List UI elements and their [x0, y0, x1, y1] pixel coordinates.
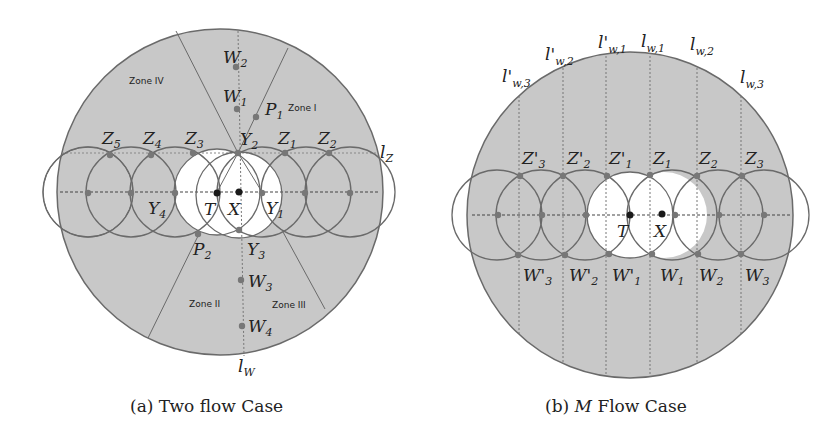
point-baseline-b4	[672, 212, 678, 218]
point-zp3	[517, 173, 523, 179]
point-t-b	[627, 212, 634, 219]
figure-b: l'w,3 l'w,2 l'w,1 lw,1 lw,2 lw,3 Z'3 Z'2…	[452, 31, 809, 416]
point-baseline-b2	[539, 212, 545, 218]
point-y1	[259, 190, 265, 196]
point-w3	[238, 277, 244, 283]
point-z4	[148, 152, 154, 158]
label-lp-w3: l'w,3	[502, 66, 531, 90]
point-w4	[239, 323, 245, 329]
point-y3	[236, 227, 242, 233]
point-x-b	[659, 211, 666, 218]
point-baseline-3	[302, 190, 308, 196]
label-lp-w2: l'w,2	[545, 44, 574, 68]
label-lp-w1: l'w,1	[598, 32, 627, 56]
caption-b: (b) M Flow Case	[545, 396, 687, 416]
label-lw: lW	[238, 356, 256, 379]
point-w1	[649, 251, 655, 257]
zone-i-label: Zone I	[288, 103, 316, 113]
zone-iii-label: Zone III	[272, 300, 306, 310]
point-zp1	[604, 173, 610, 179]
point-x	[236, 189, 243, 196]
point-baseline-1	[85, 190, 91, 196]
caption-a: (a) Two flow Case	[130, 396, 283, 416]
point-z3	[739, 173, 745, 179]
point-baseline-b3	[583, 212, 589, 218]
label-t: T	[204, 199, 217, 219]
point-zp2	[560, 173, 566, 179]
zone-iv-label: Zone IV	[129, 76, 164, 86]
point-t	[214, 190, 221, 197]
point-wp2	[562, 252, 568, 258]
label-x: X	[226, 199, 241, 219]
point-baseline-4	[347, 190, 353, 196]
point-w2	[695, 251, 701, 257]
point-wp3	[515, 252, 521, 258]
label-l-w1: lw,1	[641, 31, 665, 55]
label-x-b: X	[652, 221, 667, 241]
label-t-b: T	[617, 221, 630, 241]
point-z1	[647, 172, 653, 178]
point-z1	[282, 150, 288, 156]
point-p1	[253, 114, 259, 120]
point-baseline-b6	[761, 212, 767, 218]
point-y4	[172, 190, 178, 196]
point-baseline-b5	[716, 212, 722, 218]
point-z5	[107, 152, 113, 158]
point-baseline-b1	[495, 212, 501, 218]
label-lz: lZ	[380, 142, 393, 165]
point-wp1	[606, 251, 612, 257]
point-baseline-2	[128, 190, 134, 196]
figure-canvas: Zone IV Zone I Zone II Zone III W2 W1 P1…	[0, 0, 839, 438]
label-l-w2: lw,2	[690, 34, 714, 58]
label-l-w3: lw,3	[740, 67, 764, 91]
zone-ii-label: Zone II	[189, 299, 220, 309]
point-p2	[195, 231, 201, 237]
figure-a: Zone IV Zone I Zone II Zone III W2 W1 P1…	[43, 29, 395, 416]
point-y2	[235, 150, 241, 156]
point-z2	[694, 173, 700, 179]
point-w3	[738, 251, 744, 257]
point-z3	[190, 150, 196, 156]
point-w1	[234, 106, 240, 112]
